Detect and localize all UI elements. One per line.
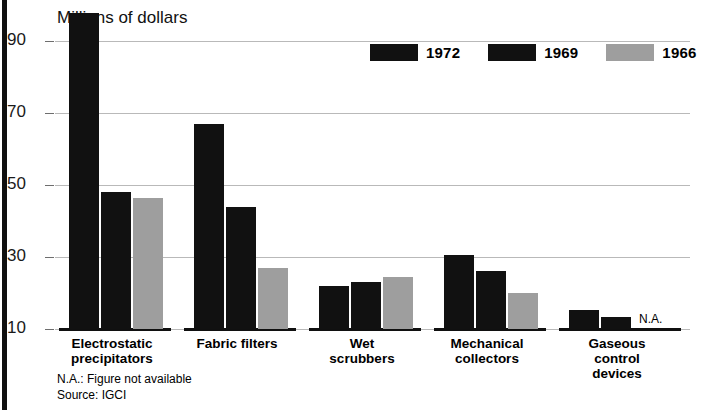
ytick-label-90: 90: [0, 30, 26, 50]
bar-1969-mechanical-collectors: [476, 271, 506, 329]
bar-1966-electrostatic-precipitators: [133, 198, 163, 329]
bar-1972-fabric-filters: [194, 124, 224, 329]
na-annotation-gaseous-control-devices: N.A.: [639, 312, 662, 326]
page-left-rule: [2, 0, 7, 410]
bar-1972-wet-scrubbers: [319, 286, 349, 329]
footnote-source: Source: IGCI: [57, 387, 192, 403]
bar-1969-electrostatic-precipitators: [101, 192, 131, 329]
ytick-label-50: 50: [0, 174, 26, 194]
ytick-label-10: 10: [0, 318, 26, 338]
bar-1969-gaseous-control-devices: [601, 317, 631, 329]
category-label-gaseous-control-devices: Gaseous control devices: [547, 336, 687, 381]
bar-group-wet-scrubbers: [317, 30, 417, 330]
bar-1972-electrostatic-precipitators: [69, 13, 99, 329]
bar-group-gaseous-control-devices: N.A.: [567, 30, 677, 330]
bar-1972-mechanical-collectors: [444, 255, 474, 329]
ytick-dash-70: [45, 113, 54, 114]
bar-1972-gaseous-control-devices: [569, 310, 599, 329]
bar-1969-wet-scrubbers: [351, 282, 381, 329]
footnotes: N.A.: Figure not available Source: IGCI: [57, 371, 192, 403]
bar-group-fabric-filters: [192, 30, 292, 330]
ytick-dash-50: [45, 185, 54, 186]
ytick-dash-30: [45, 257, 54, 258]
bar-1966-wet-scrubbers: [383, 277, 413, 329]
chart-figure: Millions of dollars 1972 1969 1966 90 70…: [0, 0, 715, 410]
category-label-electrostatic-precipitators: Electrostatic precipitators: [42, 336, 182, 366]
category-label-fabric-filters: Fabric filters: [167, 336, 307, 351]
bar-1969-fabric-filters: [226, 207, 256, 329]
bar-group-mechanical-collectors: [442, 30, 542, 330]
category-label-mechanical-collectors: Mechanical collectors: [417, 336, 557, 366]
category-label-wet-scrubbers: Wet scrubbers: [292, 336, 432, 366]
ytick-dash-90: [45, 41, 54, 42]
footnote-na: N.A.: Figure not available: [57, 371, 192, 387]
ytick-label-70: 70: [0, 102, 26, 122]
ytick-dash-10: [45, 329, 54, 330]
ytick-label-30: 30: [0, 246, 26, 266]
bar-group-electrostatic-precipitators: [67, 30, 167, 330]
bar-1966-mechanical-collectors: [508, 293, 538, 329]
plot-area: 90 70 50 30 10: [55, 30, 690, 330]
bar-1966-fabric-filters: [258, 268, 288, 329]
